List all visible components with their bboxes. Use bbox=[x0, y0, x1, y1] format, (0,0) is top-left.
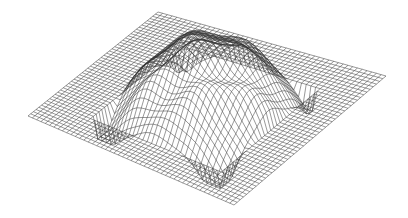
mesh-lines bbox=[28, 12, 386, 205]
surface-mesh bbox=[0, 0, 408, 218]
wireframe-surface-plot bbox=[0, 0, 408, 218]
